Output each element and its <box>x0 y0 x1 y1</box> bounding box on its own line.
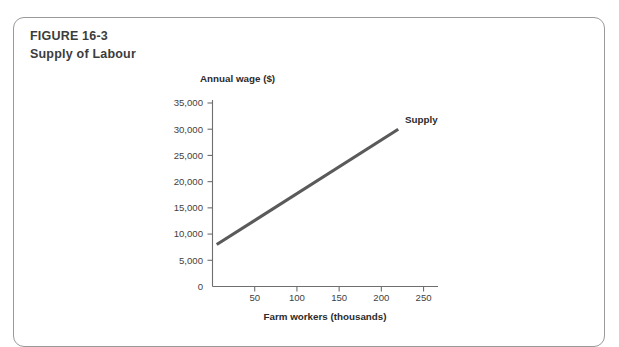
y-tick-label: 30,000 <box>174 124 203 135</box>
y-axis-tick-labels: 05,00010,00015,00020,00025,00030,00035,0… <box>174 97 203 292</box>
y-axis: 05,00010,00015,00020,00025,00030,00035,0… <box>174 73 275 292</box>
supply-label: Supply <box>405 114 438 125</box>
y-axis-title: Annual wage ($) <box>200 73 275 84</box>
y-tick-label: 10,000 <box>174 228 203 239</box>
x-tick-label: 200 <box>373 292 389 303</box>
x-axis-ticks <box>255 287 424 292</box>
y-tick-label: 20,000 <box>174 176 203 187</box>
supply-series <box>217 129 399 244</box>
x-tick-label: 50 <box>249 292 260 303</box>
y-tick-label: 15,000 <box>174 202 203 213</box>
x-tick-label: 250 <box>416 292 432 303</box>
supply-curve <box>217 129 399 244</box>
y-tick-label: 25,000 <box>174 150 203 161</box>
x-tick-label: 150 <box>331 292 347 303</box>
y-tick-label: 5,000 <box>179 255 203 266</box>
y-tick-label: 35,000 <box>174 97 203 108</box>
x-axis-tick-labels: 50100150200250 <box>249 292 431 303</box>
x-axis-title: Farm workers (thousands) <box>263 311 386 322</box>
y-tick-label: 0 <box>198 281 203 292</box>
x-axis: 50100150200250 Farm workers (thousands) <box>213 287 439 323</box>
y-axis-ticks <box>208 103 213 260</box>
x-tick-label: 100 <box>289 292 305 303</box>
series-annotations: Supply <box>405 114 438 125</box>
